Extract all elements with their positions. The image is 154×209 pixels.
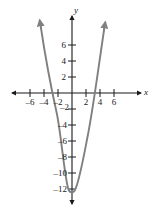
y-tick-label-4: 4 bbox=[56, 57, 66, 66]
parabola-graph-figure: –6 –4 –2 2 4 6 6 4 2 –2 –4 –6 –8 –10 –12… bbox=[0, 0, 154, 209]
y-tick-label--4: –4 bbox=[51, 121, 67, 130]
x-axis-label: x bbox=[144, 88, 148, 97]
y-tick-label--2: –2 bbox=[53, 103, 69, 112]
curve-left-arrowhead bbox=[40, 20, 42, 29]
x-tick-label-4: 4 bbox=[95, 98, 105, 107]
y-tick-label--8: –8 bbox=[51, 153, 67, 162]
y-tick-label--10: –10 bbox=[46, 169, 67, 178]
y-tick-label--6: –6 bbox=[51, 137, 67, 146]
x-tick-label-2: 2 bbox=[81, 98, 91, 107]
y-tick-label--12: –12 bbox=[46, 185, 67, 194]
x-tick-label-6: 6 bbox=[109, 98, 119, 107]
y-tick-label-6: 6 bbox=[56, 41, 66, 50]
y-axis-label: y bbox=[74, 6, 78, 15]
curve-right-arrowhead bbox=[104, 22, 106, 31]
y-tick-label-2: 2 bbox=[56, 73, 66, 82]
